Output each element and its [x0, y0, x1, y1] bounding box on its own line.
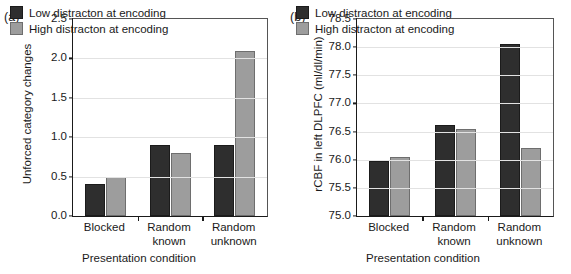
bar [390, 157, 410, 216]
gridline [73, 98, 267, 99]
legend-swatch-icon [296, 22, 309, 35]
y-tick-label: 0.5 [51, 171, 67, 183]
x-tick-label-line: Random [189, 221, 279, 235]
y-tick-label: 2.0 [51, 53, 67, 65]
y-tick-label: 78.0 [329, 41, 351, 53]
y-tick-mark [353, 159, 357, 160]
bar [235, 51, 255, 216]
panel-b-y-axis-label: rCBF in left DLPFC (ml/dl/min) [312, 24, 324, 204]
bar [171, 153, 191, 216]
panel-a-legend: Low distracton at encodingHigh distracto… [10, 6, 168, 38]
x-tick-label-line: Random [474, 221, 564, 235]
y-tick-mark [353, 103, 357, 104]
y-tick-mark [69, 58, 73, 59]
panel-b-x-axis-label: Presentation condition [308, 252, 538, 264]
legend-label: High distracton at encoding [315, 23, 454, 35]
y-tick-mark [69, 215, 73, 216]
legend-item: High distracton at encoding [296, 22, 454, 35]
gridline [357, 75, 553, 76]
gridline [357, 160, 553, 161]
bar [500, 44, 520, 216]
panel-a-y-axis-label: Unforced category changes [21, 24, 33, 204]
y-tick-label: 77.0 [329, 98, 351, 110]
legend-item: Low distracton at encoding [10, 6, 168, 19]
panel-b-bars [357, 19, 553, 216]
panel-b: (b) rCBF in left DLPFC (ml/dl/min) 75.07… [286, 0, 571, 274]
figure-two-bar-charts: (a) Unforced category changes 0.00.51.01… [0, 0, 571, 274]
y-tick-mark [69, 176, 73, 177]
bar [435, 125, 455, 216]
bar [85, 184, 105, 216]
bar [150, 145, 170, 216]
y-tick-mark [353, 215, 357, 216]
gridline [73, 137, 267, 138]
y-tick-mark [69, 137, 73, 138]
y-tick-label: 75.5 [329, 182, 351, 194]
gridline [73, 58, 267, 59]
legend-label: Low distracton at encoding [315, 7, 452, 19]
y-tick-mark [353, 47, 357, 48]
panel-a-bars [73, 19, 267, 216]
y-tick-mark [69, 97, 73, 98]
panel-b-legend: Low distracton at encodingHigh distracto… [296, 6, 454, 38]
legend-label: High distracton at encoding [29, 23, 168, 35]
legend-swatch-icon [10, 6, 23, 19]
legend-item: High distracton at encoding [10, 22, 168, 35]
y-tick-mark [353, 131, 357, 132]
x-tick-label-line: unknown [189, 235, 279, 249]
gridline [357, 188, 553, 189]
x-tick-label: Randomunknown [189, 221, 279, 248]
legend-item: Low distracton at encoding [296, 6, 454, 19]
y-tick-label: 1.0 [51, 131, 67, 143]
bar [456, 129, 476, 216]
y-tick-label: 77.5 [329, 70, 351, 82]
panel-a: (a) Unforced category changes 0.00.51.01… [0, 0, 285, 274]
gridline [73, 177, 267, 178]
panel-a-plot-area: 0.00.51.01.52.02.5 [72, 18, 268, 217]
x-tick-label-line: unknown [474, 235, 564, 249]
legend-label: Low distracton at encoding [29, 7, 166, 19]
y-tick-mark [353, 187, 357, 188]
legend-swatch-icon [10, 22, 23, 35]
gridline [357, 132, 553, 133]
y-tick-label: 1.5 [51, 92, 67, 104]
gridline [357, 103, 553, 104]
gridline [357, 47, 553, 48]
legend-swatch-icon [296, 6, 309, 19]
y-tick-mark [353, 75, 357, 76]
y-tick-label: 76.5 [329, 126, 351, 138]
bar [521, 148, 541, 216]
panel-b-plot-area: 75.075.576.076.577.077.578.078.5 [356, 18, 554, 217]
y-tick-label: 76.0 [329, 154, 351, 166]
bar [106, 177, 126, 216]
panel-a-x-axis-label: Presentation condition [24, 252, 254, 264]
bar [214, 145, 234, 216]
x-tick-label: Randomunknown [474, 221, 564, 248]
